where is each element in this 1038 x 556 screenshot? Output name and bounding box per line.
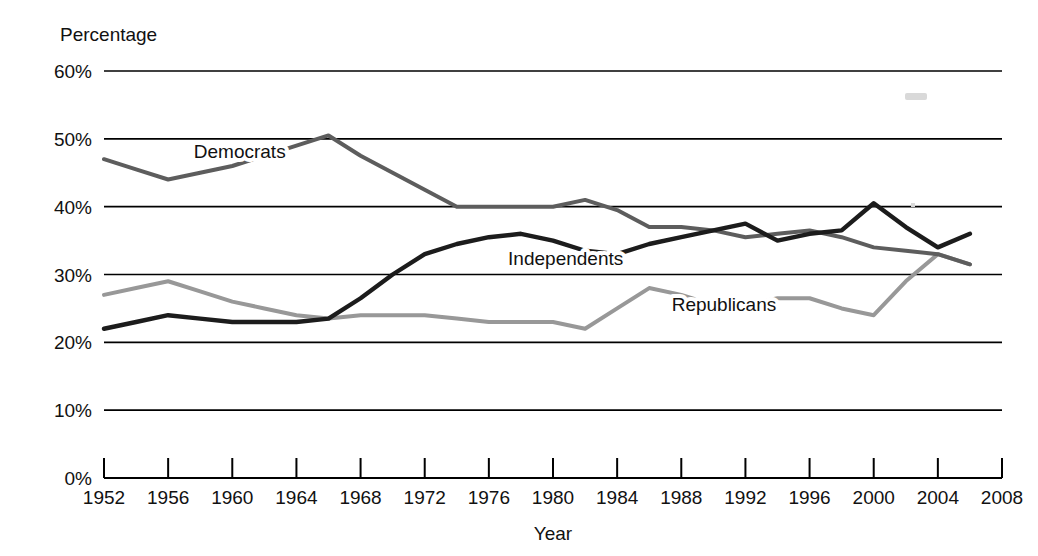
x-tick-label-1960: 1960 [211,487,253,508]
y-tick-label-40: 40% [54,197,92,218]
x-tick-label-1976: 1976 [468,487,510,508]
x-tick-label-1996: 1996 [788,487,830,508]
x-tick-label-2008: 2008 [981,487,1023,508]
x-axis-title: Year [534,523,573,544]
x-tick-label-1980: 1980 [532,487,574,508]
chart-canvas: Percentage0%10%20%30%40%50%60%1952195619… [0,0,1038,556]
x-tick-label-2000: 2000 [853,487,895,508]
y-tick-label-0: 0% [65,468,93,489]
x-tick-label-1956: 1956 [147,487,189,508]
series-label-republicans: Republicans [672,294,777,315]
x-tick-label-1984: 1984 [596,487,639,508]
y-tick-label-30: 30% [54,265,92,286]
series-label-independents: Independents [508,248,623,269]
line-chart: Percentage0%10%20%30%40%50%60%1952195619… [0,0,1038,556]
scan-speck [905,93,927,100]
x-tick-label-1968: 1968 [339,487,381,508]
series-label-democrats: Democrats [194,141,286,162]
y-tick-label-50: 50% [54,129,92,150]
y-tick-label-60: 60% [54,61,92,82]
x-tick-label-1972: 1972 [404,487,446,508]
scan-speck [911,203,915,207]
y-axis-title: Percentage [60,24,157,45]
x-tick-label-1992: 1992 [724,487,766,508]
x-tick-label-1988: 1988 [660,487,702,508]
y-tick-label-20: 20% [54,332,92,353]
x-tick-label-2004: 2004 [917,487,960,508]
x-tick-label-1952: 1952 [83,487,125,508]
x-tick-label-1964: 1964 [275,487,318,508]
y-tick-label-10: 10% [54,400,92,421]
